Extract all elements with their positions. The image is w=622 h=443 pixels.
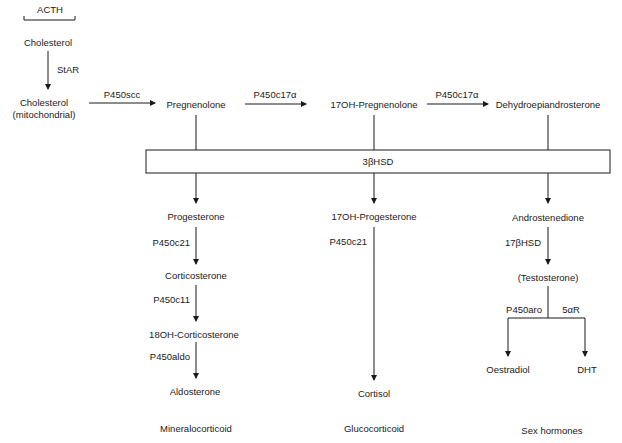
node-cholesterol-mito-sub: (mitochondrial): [13, 109, 76, 120]
enzyme-p450scc: P450scc: [104, 89, 140, 100]
enzyme-p450c17a-2: P450c17α: [436, 89, 479, 100]
enzyme-p450c17a-1: P450c17α: [254, 89, 297, 100]
node-corticosterone: Corticosterone: [165, 270, 227, 281]
node-pregnenolone: Pregnenolone: [166, 99, 225, 110]
node-cholesterol: Cholesterol: [24, 37, 72, 48]
node-17oh-pregnenolone: 17OH-Pregnenolone: [330, 99, 417, 110]
acth-bracket: [24, 16, 75, 20]
enzyme-5ar: 5αR: [562, 304, 580, 315]
enzyme-17bhsd: 17βHSD: [505, 237, 541, 248]
acth-label: ACTH: [37, 4, 63, 15]
enzyme-p450aro: P450aro: [506, 304, 542, 315]
enzyme-p450c21-gluco: P450c21: [329, 236, 367, 247]
node-dht: DHT: [577, 364, 597, 375]
node-progesterone: Progesterone: [167, 211, 224, 222]
node-18oh-corticosterone: 18OH-Corticosterone: [149, 329, 239, 340]
node-testosterone: (Testosterone): [518, 272, 579, 283]
node-17oh-progesterone: 17OH-Progesterone: [331, 211, 416, 222]
enzyme-p450c21-mineral: P450c21: [152, 237, 190, 248]
enzyme-3bhsd: 3βHSD: [363, 156, 394, 167]
node-oestradiol: Oestradiol: [486, 364, 529, 375]
node-dhea: Dehydroepiandrosterone: [496, 99, 601, 110]
enzyme-p450c11: P450c11: [153, 294, 190, 305]
category-mineralocorticoid: Mineralocorticoid: [160, 423, 232, 434]
node-androstenedione: Androstenedione: [512, 212, 584, 223]
node-cholesterol-mito: Cholesterol: [20, 97, 68, 108]
node-aldosterone: Aldosterone: [170, 386, 221, 397]
node-cortisol: Cortisol: [358, 388, 390, 399]
enzyme-star: StAR: [57, 64, 79, 75]
category-sex-hormones: Sex hormones: [521, 425, 582, 436]
category-glucocorticoid: Glucocorticoid: [344, 423, 404, 434]
enzyme-p450aldo: P450aldo: [150, 351, 190, 362]
